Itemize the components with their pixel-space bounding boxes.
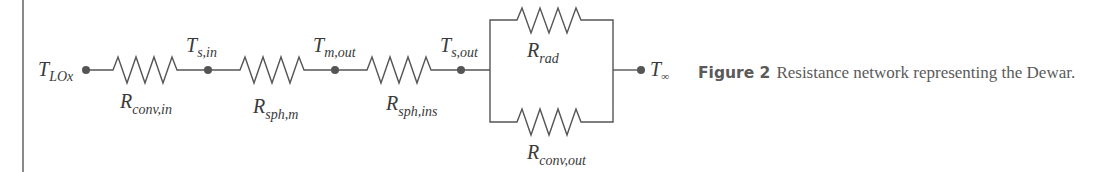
figure-caption: Figure 2Resistance network representing …: [698, 62, 1088, 84]
wire: [208, 57, 335, 83]
label-r-sph-ins: Rsph,ins: [385, 92, 438, 119]
label-r-conv-out: Rconv,out: [526, 141, 587, 168]
label-t-lox: TLOx: [38, 58, 74, 84]
wire: [335, 57, 490, 83]
label-t-m-out: Tm,out: [313, 34, 357, 60]
label-r-sph-m: Rsph,m: [252, 95, 298, 122]
wire: [490, 70, 613, 135]
series-branch: [86, 57, 490, 83]
parallel-branch: [490, 8, 641, 135]
node-t-inf: [637, 66, 645, 74]
label-r-conv-in: Rconv,in: [119, 90, 172, 117]
label-r-rad: Rrad: [526, 39, 560, 66]
label-t-s-in: Ts,in: [186, 34, 217, 60]
wire: [86, 57, 208, 83]
node-t-lox: [82, 66, 90, 74]
figure-label: Figure 2: [698, 64, 770, 82]
label-t-inf: T∞: [650, 58, 669, 82]
figure-caption-text: Resistance network representing the Dewa…: [776, 63, 1075, 82]
resistance-network-diagram: TLOx Ts,in Tm,out Ts,out T∞ Rconv,in Rsp…: [0, 0, 700, 172]
node-t-m-out: [331, 66, 339, 74]
node-t-s-in: [204, 66, 212, 74]
label-t-s-out: Ts,out: [440, 34, 479, 60]
node-t-s-out: [457, 66, 465, 74]
